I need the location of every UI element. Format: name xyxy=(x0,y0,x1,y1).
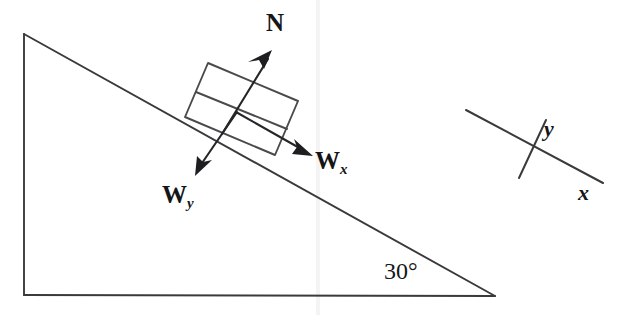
coordinate-axes xyxy=(466,110,603,183)
weight-y-arrowhead xyxy=(195,156,212,176)
weight-y-label-base: W xyxy=(162,181,187,208)
weight-y-shaft xyxy=(200,112,237,166)
weight-x-vector xyxy=(236,112,313,156)
incline-angle-label: 30° xyxy=(384,259,418,283)
block-on-incline xyxy=(185,63,298,155)
weight-x-label-subscript: x xyxy=(340,161,348,177)
inclined-plane-diagram: N Wx Wy 30° x y xyxy=(0,0,632,315)
weight-y-vector xyxy=(195,112,237,176)
y-axis-label: y xyxy=(544,118,554,140)
block-divider-line xyxy=(196,92,287,129)
weight-x-label: Wx xyxy=(315,148,348,173)
x-axis-label: x xyxy=(578,182,589,204)
block-outline xyxy=(185,63,298,155)
weight-x-shaft xyxy=(236,112,303,150)
weight-x-arrowhead xyxy=(292,139,313,156)
normal-force-label: N xyxy=(266,10,284,35)
incline-base-edge xyxy=(24,295,495,296)
weight-y-label-subscript: y xyxy=(187,195,194,211)
weight-y-label: Wy xyxy=(162,182,194,207)
weight-x-label-base: W xyxy=(315,147,340,174)
y-axis-line xyxy=(519,120,546,178)
